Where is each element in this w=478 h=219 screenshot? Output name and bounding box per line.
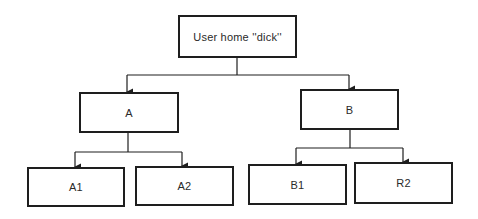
- root-node-label: User home ''dick'': [193, 31, 281, 43]
- node-a2: A2: [135, 166, 234, 206]
- root-node: User home ''dick'': [178, 15, 297, 58]
- node-a1-label: A1: [69, 181, 83, 193]
- node-a-label: A: [125, 107, 133, 119]
- node-a1: A1: [27, 167, 125, 207]
- node-a2-label: A2: [178, 180, 192, 192]
- node-a: A: [79, 92, 179, 133]
- node-b2: R2: [354, 162, 453, 204]
- node-b1-label: B1: [291, 179, 305, 191]
- node-b: B: [300, 89, 399, 130]
- node-b-label: B: [346, 104, 354, 116]
- node-b2-label: R2: [396, 177, 410, 189]
- node-b1: B1: [248, 164, 347, 205]
